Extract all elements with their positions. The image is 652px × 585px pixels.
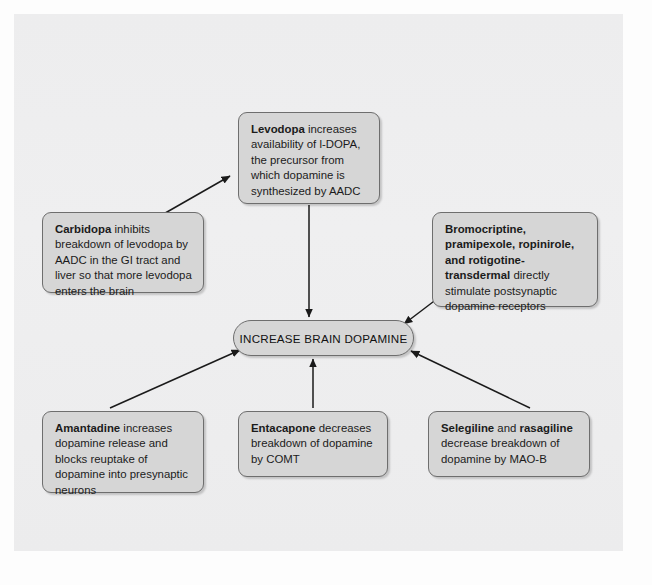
node-center-label: INCREASE BRAIN DOPAMINE bbox=[240, 332, 408, 345]
node-dopamine-agonists: Bromocriptine, pramipexole, ropinirole, … bbox=[432, 212, 598, 307]
node-amantadine-drug: Amantadine bbox=[55, 422, 120, 434]
arrow-selegiline-to-center bbox=[411, 351, 530, 408]
arrow-amantadine-to-center bbox=[110, 350, 240, 408]
node-carbidopa: Carbidopa inhibits breakdown of levodopa… bbox=[42, 212, 204, 293]
node-amantadine: Amantadine increases dopamine release an… bbox=[42, 411, 204, 493]
node-selegiline-drug-1: Selegiline bbox=[441, 422, 494, 434]
node-entacapone-drug: Entacapone bbox=[251, 422, 316, 434]
node-selegiline-drug-2: rasagiline bbox=[520, 422, 573, 434]
node-levodopa-drug: Levodopa bbox=[251, 123, 305, 135]
node-selegiline: Selegiline and rasagiline decrease break… bbox=[428, 411, 590, 477]
node-increase-brain-dopamine: INCREASE BRAIN DOPAMINE bbox=[233, 320, 414, 356]
dopamine-pathway-diagram: Levodopa increases availability of l-DOP… bbox=[0, 0, 652, 585]
scanned-page: Levodopa increases availability of l-DOP… bbox=[0, 0, 652, 585]
node-entacapone: Entacapone decreases breakdown of dopami… bbox=[238, 411, 388, 477]
node-levodopa: Levodopa increases availability of l-DOP… bbox=[238, 112, 380, 204]
node-selegiline-text: decrease breakdown of dopamine by MAO-B bbox=[441, 437, 559, 464]
arrow-carbidopa-to-levodopa bbox=[160, 176, 230, 216]
node-carbidopa-drug: Carbidopa bbox=[55, 223, 111, 235]
node-selegiline-conjunction: and bbox=[494, 422, 519, 434]
